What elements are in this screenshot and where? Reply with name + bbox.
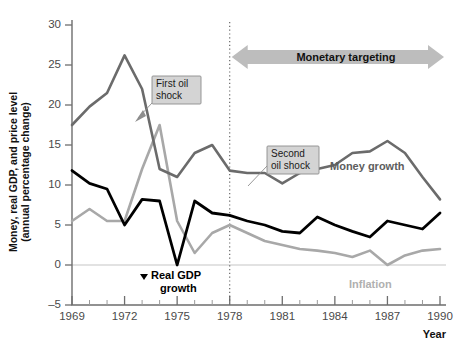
x-tick-label-1987: 1987 [375,310,401,322]
x-axis-title: Year [423,328,447,340]
first-oil-shock-line1: First oil [156,78,188,89]
x-tick-label-1984: 1984 [322,310,348,322]
y-tick-5: 5 [55,218,61,230]
x-axis-ticks [72,296,440,305]
second-oil-shock-leader [248,166,267,186]
real-gdp-growth-line [72,171,440,265]
y-axis-ticks [65,25,72,305]
y-tick-20: 20 [48,98,61,110]
money-gdp-price-line-chart: Money, real GDP, and price level (annual… [0,0,456,345]
y-axis-title-line2: (annual percentage change) [19,102,31,241]
inflation-label: Inflation [349,278,392,290]
y-tick-neg5: –5 [48,298,61,310]
first-oil-shock-line2: shock [156,90,183,101]
inflation-line [72,125,440,265]
x-tick-label-1981: 1981 [269,310,295,322]
real-gdp-growth-label: Real GDP growth [140,269,201,294]
y-tick-15: 15 [48,138,61,150]
x-tick-label-1972: 1972 [112,310,138,322]
y-axis-title-line1: Money, real GDP, and price level [7,92,19,252]
monetary-targeting-band: Monetary targeting [232,45,444,69]
real-gdp-growth-label-line1: Real GDP [151,269,201,281]
x-tick-label-1975: 1975 [164,310,190,322]
real-gdp-growth-label-line2: growth [160,282,197,294]
money-growth-label: Money growth [330,160,405,172]
chart-container: Money, real GDP, and price level (annual… [0,0,456,345]
x-tick-label-1978: 1978 [217,310,243,322]
y-axis-tick-labels: 30 25 20 15 10 5 0 –5 [48,18,61,310]
x-tick-label-1969: 1969 [59,310,85,322]
real-gdp-pointer-icon [140,274,148,280]
y-tick-25: 25 [48,58,61,70]
y-tick-0: 0 [55,258,61,270]
second-oil-shock-line1: Second [271,148,305,159]
monetary-targeting-label: Monetary targeting [296,51,395,63]
second-oil-shock-annotation: Second oil shock [248,146,319,186]
second-oil-shock-line2: oil shock [271,160,311,171]
x-axis-tick-labels: 19691972197519781981198419871990 [59,310,453,322]
y-axis-title: Money, real GDP, and price level (annual… [7,92,31,252]
x-tick-label-1990: 1990 [427,310,453,322]
y-tick-10: 10 [48,178,61,190]
y-tick-30: 30 [48,18,61,30]
